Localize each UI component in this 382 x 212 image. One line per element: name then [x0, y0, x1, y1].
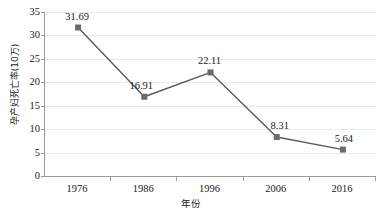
- y-axis-tick-mark: [41, 82, 45, 83]
- y-axis-tick-mark: [41, 129, 45, 130]
- data-point-label: 5.64: [335, 133, 353, 144]
- data-point-marker: [340, 147, 346, 153]
- x-axis-tick-label: 2006: [265, 182, 286, 195]
- y-axis-tick-mark: [41, 12, 45, 13]
- x-axis-title: 年份: [0, 196, 382, 210]
- y-axis-tick-label: 10: [14, 124, 40, 134]
- data-point-marker: [141, 94, 147, 100]
- data-point-marker: [208, 69, 214, 75]
- y-axis-tick-mark: [41, 59, 45, 60]
- y-axis-tick-label: 20: [14, 77, 40, 87]
- maternal-mortality-line-chart: 孕产妇死亡率(10万) 05101520253035 31.6916.9122.…: [0, 0, 382, 212]
- y-axis-tick-label: 25: [14, 54, 40, 64]
- y-axis-tick-mark: [41, 106, 45, 107]
- plot-area: [44, 12, 376, 177]
- y-axis-tick-label: 5: [14, 148, 40, 158]
- x-axis-tick-label: 1986: [133, 182, 154, 195]
- y-axis-tick-label: 0: [14, 171, 40, 181]
- data-point-marker: [75, 25, 81, 31]
- y-axis-tick-mark: [41, 35, 45, 36]
- data-point-label: 22.11: [198, 55, 221, 66]
- series-line-and-markers: [45, 12, 376, 176]
- x-axis-tick-label: 1996: [199, 182, 220, 195]
- y-axis-tick-label: 35: [14, 7, 40, 17]
- y-axis-tick-label: 30: [14, 30, 40, 40]
- data-point-label: 8.31: [271, 120, 289, 131]
- data-point-label: 16.91: [129, 80, 153, 91]
- data-point-marker: [274, 134, 280, 140]
- series-line: [78, 28, 343, 150]
- x-axis-tick-mark: [375, 176, 376, 181]
- x-axis-tick-label: 2016: [331, 182, 352, 195]
- y-axis-tick-label: 15: [14, 101, 40, 111]
- y-axis-tick-labels: 05101520253035: [14, 0, 40, 180]
- y-axis-tick-mark: [41, 153, 45, 154]
- data-point-label: 31.69: [65, 11, 89, 22]
- x-axis-tick-mark: [176, 176, 177, 181]
- x-axis-tick-mark: [243, 176, 244, 181]
- x-axis-tick-mark: [309, 176, 310, 181]
- x-axis-tick-label: 1976: [67, 182, 88, 195]
- x-axis-tick-mark: [110, 176, 111, 181]
